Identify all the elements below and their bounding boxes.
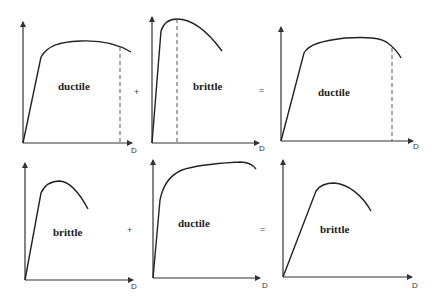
x-axis-label: D xyxy=(259,144,265,153)
panel-label: ductile xyxy=(178,217,210,229)
panel-top-middle: brittle D xyxy=(152,17,265,153)
panel-bottom-left: brittle D xyxy=(25,163,137,291)
panel-label: brittle xyxy=(193,80,222,92)
equals-operator: = xyxy=(260,224,265,234)
panel-label: brittle xyxy=(320,223,349,235)
panel-bottom-right: brittle D xyxy=(283,160,418,290)
panel-top-left: ductile D xyxy=(23,22,137,155)
panel-label: brittle xyxy=(53,226,82,238)
ductile-brittle-combination-diagram: ductile D + brittle D = ductile D brittl… xyxy=(0,0,439,301)
panel-bottom-middle: ductile D xyxy=(153,160,268,290)
panel-top-right: ductile D xyxy=(281,27,419,151)
plus-operator: + xyxy=(134,87,139,97)
x-axis-label: D xyxy=(412,281,418,290)
x-axis-label: D xyxy=(262,281,268,290)
x-axis-label: D xyxy=(131,146,137,155)
panel-label: ductile xyxy=(318,86,350,98)
plus-operator: + xyxy=(127,225,132,235)
panel-label: ductile xyxy=(58,80,90,92)
x-axis-label: D xyxy=(131,282,137,291)
x-axis-label: D xyxy=(413,142,419,151)
equals-operator: = xyxy=(259,85,264,95)
